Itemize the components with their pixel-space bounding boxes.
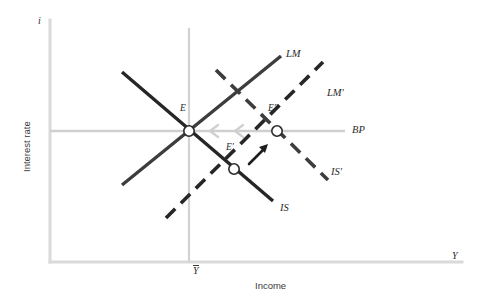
lm-curve-label: LM [286,49,301,60]
is-curve-label: IS [280,203,289,214]
equilibrium-label-E-prime: E′ [226,143,234,153]
bp-curve-label: BP [352,125,365,136]
is-prime-curve-label: IS′ [331,167,342,178]
horizontal-axis-variable: Y [452,251,458,261]
equilibrium-label-E-double-prime: E″ [268,104,278,114]
horizontal-axis-name: Income [255,281,286,291]
axis-frame [50,20,462,262]
vertical-axis-name: Interest rate [22,121,32,172]
equilibrium-marker-E-prime [229,164,239,174]
equilibrium-marker-E-double-prime [272,126,282,136]
adjustment-arrow-icon [249,144,268,164]
vertical-axis-variable: i [38,16,41,26]
potential-output-tick-label: Y [193,265,199,277]
equilibrium-marker-E [184,126,194,136]
lm-prime-curve-label: LM′ [327,88,344,99]
equilibrium-label-E: E [180,104,186,114]
diagram-canvas [0,0,482,302]
lm-curve [122,56,281,185]
is-lm-bp-figure: i Y Interest rate Income Y LM LM′ IS IS′… [0,0,482,302]
potential-output-tick-text: Y [193,265,199,277]
